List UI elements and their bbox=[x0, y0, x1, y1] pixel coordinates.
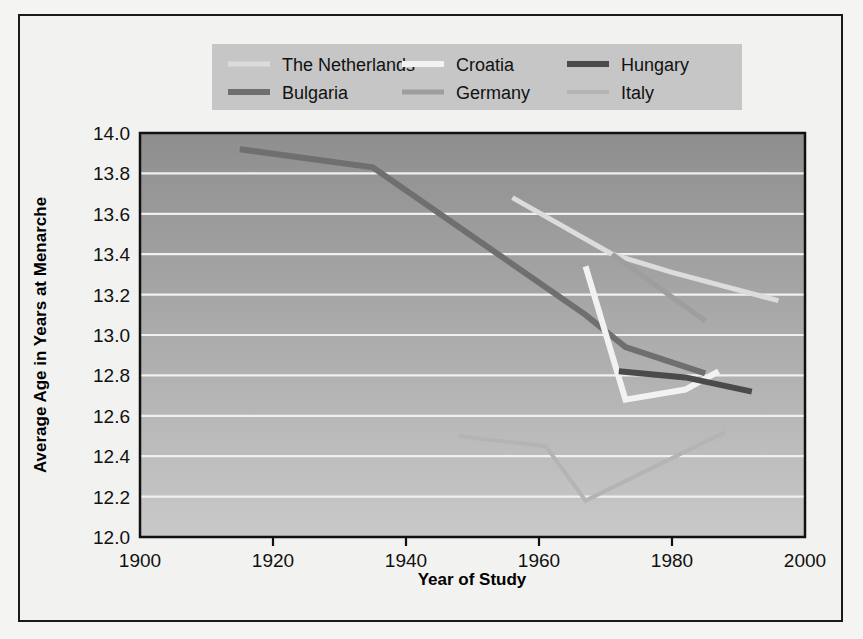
x-tick-label: 1920 bbox=[252, 550, 294, 571]
y-tick-label: 13.6 bbox=[93, 204, 130, 225]
legend-label-germany: Germany bbox=[456, 83, 530, 103]
figure-container: The NetherlandsCroatiaHungaryBulgariaGer… bbox=[0, 0, 863, 639]
legend-label-the-netherlands: The Netherlands bbox=[282, 55, 415, 75]
y-tick-label: 12.0 bbox=[93, 527, 130, 548]
y-tick-label: 13.4 bbox=[93, 244, 130, 265]
x-tick-label: 1980 bbox=[651, 550, 693, 571]
y-tick-label: 12.2 bbox=[93, 487, 130, 508]
y-tick-label: 12.8 bbox=[93, 365, 130, 386]
y-tick-label: 14.0 bbox=[93, 123, 130, 144]
legend-label-hungary: Hungary bbox=[621, 55, 689, 75]
x-tick-label: 1900 bbox=[119, 550, 161, 571]
y-tick-label: 12.6 bbox=[93, 406, 130, 427]
x-tick-label: 1960 bbox=[518, 550, 560, 571]
y-axis-title: Average Age in Years at Menarche bbox=[31, 197, 50, 473]
y-tick-label: 12.4 bbox=[93, 446, 130, 467]
y-axis-ticks: 12.012.212.412.612.813.013.213.413.613.8… bbox=[93, 123, 130, 548]
menarche-age-line-chart: The NetherlandsCroatiaHungaryBulgariaGer… bbox=[0, 0, 863, 639]
x-axis-ticks: 190019201940196019802000 bbox=[119, 537, 826, 571]
y-tick-label: 13.0 bbox=[93, 325, 130, 346]
legend-label-bulgaria: Bulgaria bbox=[282, 83, 349, 103]
x-tick-label: 1940 bbox=[385, 550, 427, 571]
y-tick-label: 13.2 bbox=[93, 285, 130, 306]
x-axis-title: Year of Study bbox=[418, 570, 527, 589]
x-tick-label: 2000 bbox=[784, 550, 826, 571]
y-tick-label: 13.8 bbox=[93, 163, 130, 184]
legend-label-croatia: Croatia bbox=[456, 55, 515, 75]
chart-legend: The NetherlandsCroatiaHungaryBulgariaGer… bbox=[212, 44, 742, 110]
legend-label-italy: Italy bbox=[621, 83, 654, 103]
